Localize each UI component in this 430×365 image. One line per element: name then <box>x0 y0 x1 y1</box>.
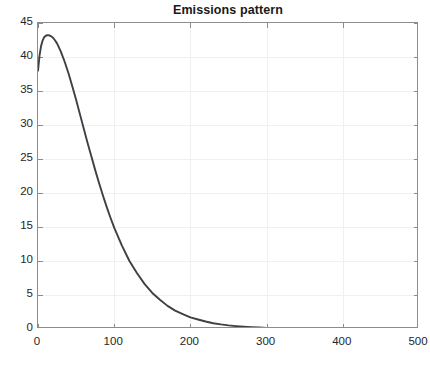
y-tick-label: 35 <box>3 84 33 96</box>
horizontal-gridlines <box>38 58 418 296</box>
y-tick-label: 30 <box>3 118 33 130</box>
y-tick-label: 0 <box>3 322 33 334</box>
chart-figure: Emissions pattern 051015202530354045 010… <box>0 0 430 365</box>
x-tick-label: 500 <box>388 336 430 348</box>
y-tick-label: 10 <box>3 254 33 266</box>
vertical-gridlines <box>115 23 344 328</box>
x-tick-label: 100 <box>83 336 143 348</box>
plot-area <box>37 22 418 328</box>
plot-canvas <box>38 23 418 328</box>
y-tick-label: 45 <box>3 16 33 28</box>
x-axis-tickmarks <box>39 23 419 328</box>
chart-title: Emissions pattern <box>37 3 419 17</box>
x-tick-label: 300 <box>236 336 296 348</box>
y-tick-label: 15 <box>3 220 33 232</box>
x-tick-label: 0 <box>7 336 67 348</box>
y-tick-label: 25 <box>3 152 33 164</box>
y-tick-label: 20 <box>3 186 33 198</box>
y-axis-tickmarks <box>38 24 418 329</box>
y-tick-label: 5 <box>3 288 33 300</box>
y-axis-labels: 051015202530354045 <box>0 0 33 365</box>
x-tick-label: 400 <box>312 336 372 348</box>
x-tick-label: 200 <box>159 336 219 348</box>
emissions-curve <box>38 35 418 328</box>
y-tick-label: 40 <box>3 50 33 62</box>
x-axis-labels: 0100200300400500 <box>0 336 430 356</box>
